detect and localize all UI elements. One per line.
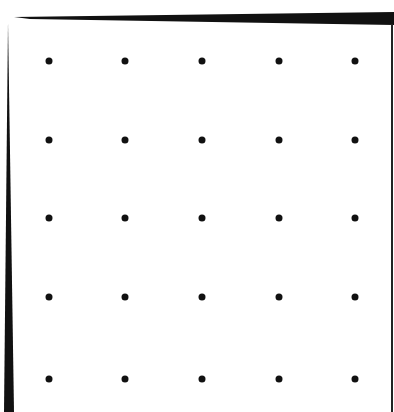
grid-dot [352,215,359,222]
grid-dot [122,58,129,65]
left-edge-shadow [4,22,14,412]
grid-dot [352,294,359,301]
grid-dot [276,376,283,383]
grid-dot [352,376,359,383]
grid-dot [276,58,283,65]
grid-dot [276,215,283,222]
grid-dot [122,137,129,144]
grid-dot [199,58,206,65]
grid-dot [276,294,283,301]
grid-dot [46,294,53,301]
grid-dot [199,215,206,222]
grid-dot [199,294,206,301]
grid-dot [46,58,53,65]
grid-dot [46,137,53,144]
right-edge-line [391,24,393,412]
grid-dot [352,58,359,65]
grid-dot [122,215,129,222]
frame-shading [0,0,394,412]
top-edge-shadow [14,12,394,25]
grid-dot [46,215,53,222]
grid-dot [199,376,206,383]
grid-dot [46,376,53,383]
grid-dot [352,137,359,144]
grid-dot [276,137,283,144]
grid-dot [122,376,129,383]
dot-grid-figure [0,0,394,412]
grid-dot [199,137,206,144]
grid-dot [122,294,129,301]
